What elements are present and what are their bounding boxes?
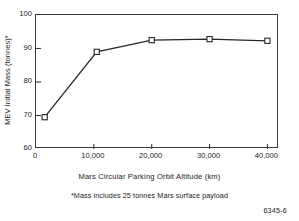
figure-id-label: 6345-6 — [263, 206, 287, 215]
data-point — [42, 115, 47, 120]
footnote-text: *Mass includes 25 tonnes Mars surface pa… — [0, 191, 299, 200]
x-tick-label: 30,000 — [188, 151, 230, 160]
data-point — [94, 49, 99, 54]
y-axis-tick-labels: 60708090100 — [8, 0, 32, 221]
data-point — [265, 38, 270, 43]
y-tick-label: 70 — [10, 111, 32, 119]
data-point — [149, 38, 154, 43]
data-point — [207, 37, 212, 42]
x-axis-title: Mars Circular Parking Orbit Altitude (km… — [0, 172, 299, 181]
plot-area — [35, 14, 278, 148]
figure-container: MEV Initial Mass (tonnes)* 60708090100 0… — [0, 0, 299, 221]
axis-ticks — [36, 49, 267, 150]
y-tick-label: 80 — [10, 77, 32, 85]
x-tick-label: 40,000 — [245, 151, 287, 160]
x-axis-tick-labels: 010,00020,00030,00040,000 — [0, 151, 299, 163]
x-tick-label: 20,000 — [130, 151, 172, 160]
x-tick-label: 0 — [14, 151, 56, 160]
y-tick-label: 100 — [10, 10, 32, 18]
chart-svg — [36, 15, 279, 149]
y-tick-label: 90 — [10, 44, 32, 52]
x-tick-label: 10,000 — [72, 151, 114, 160]
data-line — [45, 39, 268, 117]
